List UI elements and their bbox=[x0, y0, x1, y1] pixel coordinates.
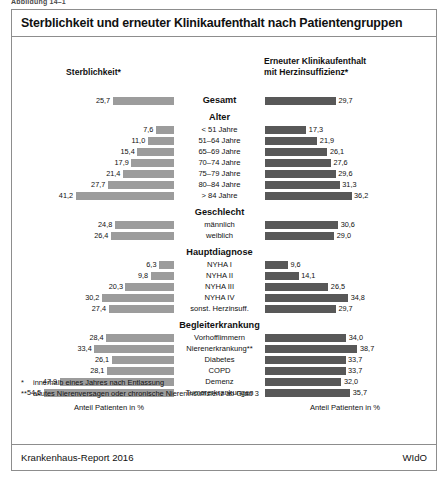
bar-cell-left: 11,0 bbox=[12, 135, 174, 146]
bar-left bbox=[112, 356, 174, 364]
bar-cell-right: 29,6 bbox=[265, 168, 436, 179]
group-heading-alter: Alter bbox=[162, 111, 277, 123]
category-label: < 51 Jahre bbox=[174, 124, 265, 135]
bar-cell-left: 27,7 bbox=[12, 179, 174, 190]
bar-value-left: 27,4 bbox=[92, 304, 106, 313]
bar-cell-left: 26,1 bbox=[12, 354, 174, 365]
bar-left bbox=[125, 283, 174, 291]
bar-cell-left: 6,3 bbox=[12, 259, 174, 270]
bar-cell-right: 34,0 bbox=[265, 332, 436, 343]
bar-cell-left: 7,6 bbox=[12, 124, 174, 135]
bar-cell-left: 26,4 bbox=[12, 230, 174, 241]
bar-value-right: 38,7 bbox=[360, 344, 374, 353]
bar-row: 26,1Diabetes33,7 bbox=[12, 354, 436, 365]
bar-cell-right: 35,7 bbox=[265, 387, 436, 398]
bar-right bbox=[265, 345, 357, 353]
bar-left bbox=[109, 305, 174, 313]
bar-cell-left: 25,7 bbox=[12, 95, 174, 106]
bar-value-left: 6,3 bbox=[146, 260, 156, 269]
bar-row: 20,3NYHA III26,5 bbox=[12, 281, 436, 292]
bar-row: 6,3NYHA I9,6 bbox=[12, 259, 436, 270]
bar-left bbox=[115, 221, 174, 229]
bar-value-left: 28,1 bbox=[90, 366, 104, 375]
bar-value-right: 27,6 bbox=[333, 158, 347, 167]
bar-value-right: 9,6 bbox=[290, 260, 300, 269]
bar-value-left: 41,2 bbox=[59, 191, 73, 200]
bar-right bbox=[265, 159, 331, 167]
bar-cell-right: 32,0 bbox=[265, 376, 436, 387]
bar-right bbox=[265, 181, 340, 189]
bar-row: 17,970–74 Jahre27,6 bbox=[12, 157, 436, 168]
bar-value-left: 30,2 bbox=[85, 293, 99, 302]
bar-value-left: 24,8 bbox=[98, 220, 112, 229]
figure-caption: Abbildung 14–1 bbox=[11, 0, 66, 6]
bar-cell-left: 30,2 bbox=[12, 292, 174, 303]
bar-cell-right: 36,2 bbox=[265, 190, 436, 201]
bar-cell-right: 27,6 bbox=[265, 157, 436, 168]
bar-row: 26,4weiblich29,0 bbox=[12, 230, 436, 241]
category-label: 65–69 Jahre bbox=[174, 146, 265, 157]
bar-left bbox=[108, 181, 174, 189]
bar-value-right: 29,7 bbox=[338, 96, 352, 105]
category-label: 51–64 Jahre bbox=[174, 135, 265, 146]
bar-right bbox=[265, 367, 346, 375]
bar-right bbox=[265, 126, 306, 134]
bar-left bbox=[102, 294, 174, 302]
category-label: Diabetes bbox=[174, 354, 265, 365]
bar-left bbox=[156, 126, 174, 134]
bar-value-left: 26,1 bbox=[95, 355, 109, 364]
bar-value-right: 36,2 bbox=[354, 191, 368, 200]
bar-cell-right: 31,3 bbox=[265, 179, 436, 190]
bar-value-left: 28,4 bbox=[89, 333, 103, 342]
bar-cell-left: 24,8 bbox=[12, 219, 174, 230]
category-label: NYHA IV bbox=[174, 292, 265, 303]
category-label: 80–84 Jahre bbox=[174, 179, 265, 190]
bar-value-right: 33,7 bbox=[348, 355, 362, 364]
axis-caption-left: Anteil Patienten in % bbox=[34, 403, 184, 412]
figure-title-bar: Sterblichkeit und erneuter Klinikaufenth… bbox=[12, 10, 436, 37]
bar-value-right: 17,3 bbox=[309, 125, 323, 134]
bar-value-right: 30,6 bbox=[341, 220, 355, 229]
column-header-right-line2: mit Herzinsuffizienz* bbox=[264, 67, 434, 78]
bar-cell-right: 9,6 bbox=[265, 259, 436, 270]
footnote-mark: ** bbox=[21, 388, 33, 399]
category-label: NYHA I bbox=[174, 259, 265, 270]
bar-row: 27,4sonst. Herzinsuff.29,7 bbox=[12, 303, 436, 314]
bar-left bbox=[111, 232, 174, 240]
bar-left bbox=[94, 345, 174, 353]
bar-cell-left: 28,4 bbox=[12, 332, 174, 343]
bar-value-right: 31,3 bbox=[342, 180, 356, 189]
bar-row: 11,051–64 Jahre21,9 bbox=[12, 135, 436, 146]
footnotes: * innerhalb eines Jahres nach Entlassung… bbox=[21, 377, 259, 399]
bar-value-left: 17,9 bbox=[115, 158, 129, 167]
bar-value-right: 35,7 bbox=[353, 388, 367, 397]
bar-left bbox=[113, 97, 174, 105]
bar-right bbox=[265, 305, 336, 313]
bar-value-right: 33,7 bbox=[348, 366, 362, 375]
bar-right bbox=[265, 170, 336, 178]
category-label: > 84 Jahre bbox=[174, 190, 265, 201]
bar-row: 25,7Gesamt29,7 bbox=[12, 95, 436, 106]
footnote-item: * innerhalb eines Jahres nach Entlassung bbox=[21, 377, 259, 388]
group-heading-begleiterkrankung: Begleiterkrankung bbox=[162, 319, 277, 331]
category-label: weiblich bbox=[174, 230, 265, 241]
footnote-text: innerhalb eines Jahres nach Entlassung bbox=[33, 377, 164, 388]
category-label: 75–79 Jahre bbox=[174, 168, 265, 179]
bar-cell-right: 21,9 bbox=[265, 135, 436, 146]
bar-cell-right: 17,3 bbox=[265, 124, 436, 135]
bar-value-right: 29,6 bbox=[338, 169, 352, 178]
category-label: 70–74 Jahre bbox=[174, 157, 265, 168]
bar-value-right: 29,0 bbox=[337, 231, 351, 240]
bar-cell-right: 34,8 bbox=[265, 292, 436, 303]
bar-cell-left: 9,8 bbox=[12, 270, 174, 281]
bar-right bbox=[265, 232, 334, 240]
bar-row: 15,465–69 Jahre26,1 bbox=[12, 146, 436, 157]
bar-right bbox=[265, 148, 327, 156]
bar-cell-right: 14,1 bbox=[265, 270, 436, 281]
column-header-right: Erneuter Klinikaufenthalt mit Herzinsuff… bbox=[264, 56, 434, 77]
bar-row: 24,8männlich30,6 bbox=[12, 219, 436, 230]
bar-value-left: 7,6 bbox=[143, 125, 153, 134]
bar-right bbox=[265, 283, 328, 291]
bar-value-right: 29,7 bbox=[338, 304, 352, 313]
footnote-text: akutes Nierenversagen oder chronische Ni… bbox=[33, 388, 259, 399]
